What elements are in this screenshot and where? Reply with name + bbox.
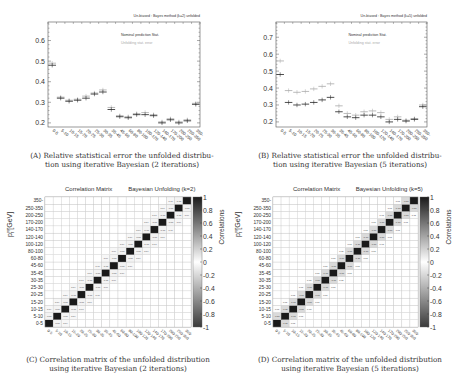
matrix-cell bbox=[69, 255, 77, 262]
svg-text:-0.18: -0.18 bbox=[323, 272, 329, 274]
matrix-cell bbox=[183, 276, 191, 283]
matrix-cell bbox=[118, 276, 126, 283]
matrix-cell bbox=[102, 298, 110, 305]
matrix-cell bbox=[321, 298, 329, 305]
matrix-cell bbox=[118, 255, 126, 262]
matrix-cell bbox=[289, 269, 297, 276]
matrix-cell bbox=[183, 284, 191, 291]
y-tick-label: 250-350 bbox=[253, 206, 271, 211]
matrix-cell bbox=[362, 204, 370, 211]
matrix-cell bbox=[110, 313, 118, 320]
matrix-cell bbox=[175, 284, 183, 291]
matrix-cell bbox=[94, 219, 102, 226]
colorbar-tick: 0.8 bbox=[430, 207, 440, 214]
colorbar-tick: 0 bbox=[203, 259, 207, 266]
matrix-cell bbox=[410, 240, 418, 247]
matrix-cell bbox=[313, 320, 321, 327]
matrix-cell bbox=[126, 320, 134, 327]
matrix-cell bbox=[183, 298, 191, 305]
matrix-cell bbox=[167, 240, 175, 247]
matrix-cell bbox=[69, 269, 77, 276]
svg-text:-0.06: -0.06 bbox=[103, 279, 109, 281]
y-tick-label: 20-25 bbox=[31, 292, 44, 297]
matrix-cell bbox=[150, 255, 158, 262]
matrix-cell bbox=[329, 313, 337, 320]
matrix-cell bbox=[150, 248, 158, 255]
matrix-cell bbox=[329, 320, 337, 327]
y-axis-label: pγγT [GeV] bbox=[5, 212, 15, 237]
svg-text:-0.18: -0.18 bbox=[315, 294, 321, 296]
matrix-cell bbox=[394, 320, 402, 327]
matrix-cell bbox=[337, 305, 345, 312]
matrix-cell bbox=[45, 226, 53, 233]
matrix-cell bbox=[402, 298, 410, 305]
matrix-cell bbox=[394, 305, 402, 312]
matrix-cell bbox=[159, 262, 167, 269]
matrix-cell bbox=[394, 211, 402, 218]
colorbar-tick: 0.2 bbox=[430, 246, 440, 253]
matrix-cell bbox=[150, 313, 158, 320]
matrix-cell bbox=[86, 240, 94, 247]
matrix-cell bbox=[370, 211, 378, 218]
matrix-cell bbox=[53, 269, 61, 276]
matrix-cell bbox=[354, 219, 362, 226]
caption-d-line1: Correlation matrix of the unfolded distr… bbox=[272, 355, 442, 364]
caption-a-line1: Relative statistical error the unfolded … bbox=[43, 151, 213, 160]
svg-text:-0.06: -0.06 bbox=[79, 301, 85, 303]
matrix-cell bbox=[354, 211, 362, 218]
matrix-cell bbox=[273, 211, 281, 218]
y-tick-label: 170-200 bbox=[253, 220, 271, 225]
svg-text:-0.18: -0.18 bbox=[395, 207, 401, 209]
matrix-cell bbox=[150, 284, 158, 291]
matrix-cell bbox=[175, 204, 183, 211]
matrix-cell bbox=[337, 284, 345, 291]
correlation-matrix-k5: Correlation MatrixBayesian Unfolding (k=… bbox=[228, 182, 453, 347]
matrix-cell bbox=[159, 240, 167, 247]
svg-text:-0.06: -0.06 bbox=[87, 279, 93, 281]
matrix-cell bbox=[337, 291, 345, 298]
svg-text:-0.06: -0.06 bbox=[136, 250, 142, 252]
matrix-cell bbox=[313, 204, 321, 211]
matrix-cell bbox=[410, 219, 418, 226]
svg-text:-0.06: -0.06 bbox=[55, 308, 61, 310]
matrix-cell bbox=[102, 219, 110, 226]
matrix-cell bbox=[305, 197, 313, 204]
matrix-cell bbox=[410, 233, 418, 240]
matrix-cell bbox=[150, 197, 158, 204]
matrix-cell bbox=[175, 320, 183, 327]
matrix-cell bbox=[362, 262, 370, 269]
matrix-cell bbox=[110, 284, 118, 291]
matrix-cell bbox=[45, 204, 53, 211]
matrix-cell bbox=[53, 313, 61, 320]
matrix-cell bbox=[289, 226, 297, 233]
matrix-cell bbox=[53, 276, 61, 283]
matrix-cell bbox=[175, 269, 183, 276]
svg-text:-0.18: -0.18 bbox=[339, 257, 345, 259]
matrix-cell bbox=[61, 226, 69, 233]
matrix-cell bbox=[329, 219, 337, 226]
matrix-cell bbox=[410, 255, 418, 262]
svg-text:-0.18: -0.18 bbox=[331, 265, 337, 267]
matrix-cell bbox=[69, 276, 77, 283]
matrix-cell bbox=[110, 197, 118, 204]
matrix-cell bbox=[410, 284, 418, 291]
colorbar-tick: -0.4 bbox=[430, 285, 442, 292]
matrix-cell bbox=[86, 305, 94, 312]
matrix-cell bbox=[53, 240, 61, 247]
svg-text:-0.18: -0.18 bbox=[275, 315, 281, 317]
matrix-cell bbox=[159, 248, 167, 255]
matrix-cell bbox=[102, 248, 110, 255]
svg-text:-0.18: -0.18 bbox=[355, 243, 361, 245]
matrix-cell bbox=[142, 320, 150, 327]
matrix-cell bbox=[159, 284, 167, 291]
matrix-cell bbox=[394, 298, 402, 305]
matrix-cell bbox=[102, 240, 110, 247]
svg-text:-0.06: -0.06 bbox=[95, 286, 101, 288]
matrix-cell bbox=[126, 204, 134, 211]
matrix-cell bbox=[329, 305, 337, 312]
matrix-cell bbox=[394, 291, 402, 298]
matrix-cell bbox=[281, 219, 289, 226]
matrix-cell bbox=[110, 226, 118, 233]
matrix-cell bbox=[337, 197, 345, 204]
y-tick-label: 250-350 bbox=[25, 206, 43, 211]
